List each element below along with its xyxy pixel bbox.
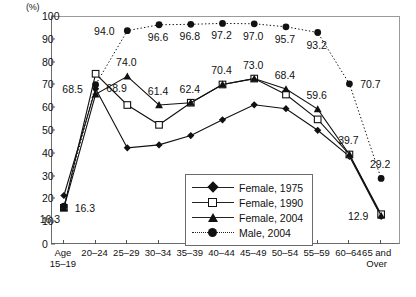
y-axis-tick-mark: [51, 84, 55, 85]
y-axis-tick-mark: [51, 244, 55, 245]
data-point-label: 73.0: [243, 59, 263, 71]
data-point-marker: [92, 81, 99, 88]
y-axis-tick-mark: [51, 107, 55, 108]
y-axis-tick-mark: [51, 198, 55, 199]
data-point-marker: [314, 105, 322, 112]
data-point-marker: [283, 91, 290, 98]
data-point-marker: [156, 122, 163, 129]
x-axis-tick-label: Age15–19: [50, 248, 76, 269]
data-point-marker: [251, 101, 258, 108]
chart-container: (%) 0102030405060708090100 Age15–1920–24…: [0, 0, 416, 297]
legend-item-female-2004: Female, 2004: [192, 210, 306, 225]
data-point-label: 97.0: [243, 30, 263, 42]
data-point-marker: [283, 23, 290, 30]
x-axis-tick-label: 50–54: [272, 248, 298, 259]
data-point-marker: [314, 29, 321, 36]
data-point-marker: [123, 72, 131, 79]
triangle-marker-icon: [192, 211, 234, 224]
x-axis-tick-label: 60–64: [335, 248, 361, 259]
data-point-marker: [378, 175, 385, 182]
y-axis-tick-mark: [51, 130, 55, 131]
y-axis-tick-label: 90: [42, 33, 47, 45]
data-point-label: 61.4: [148, 85, 168, 97]
diamond-marker-icon: [192, 181, 234, 194]
data-point-marker: [124, 144, 131, 151]
data-point-label: 70.7: [360, 78, 380, 90]
data-point-marker: [155, 141, 162, 148]
y-axis-tick-label: 30: [42, 170, 47, 182]
y-axis-tick-mark: [51, 175, 55, 176]
legend-item-female-1975: Female, 1975: [192, 180, 306, 195]
y-axis-tick-label: 70: [42, 78, 47, 90]
y-axis-tick-label: 100: [42, 10, 47, 22]
data-point-marker: [92, 70, 99, 77]
data-point-label: 59.6: [306, 89, 326, 101]
data-point-label: 95.7: [275, 33, 295, 45]
y-axis-tick-label: 60: [42, 101, 47, 113]
data-point-marker: [187, 132, 194, 139]
data-point-marker: [219, 20, 226, 27]
data-point-label: 74.0: [116, 56, 136, 68]
open-square-marker-icon: [192, 196, 234, 209]
y-axis-tick-label: 40: [42, 147, 47, 159]
x-axis-tick-mark: [158, 240, 159, 244]
x-axis-tick-label: 30–34: [145, 248, 171, 259]
x-axis-tick-mark: [63, 240, 64, 244]
legend-label: Female, 2004: [234, 212, 303, 224]
data-point-label: 16.3: [75, 202, 95, 214]
x-axis-tick-mark: [348, 240, 349, 244]
x-axis-tick-label: 55–59: [303, 248, 329, 259]
data-point-label: 12.9: [348, 210, 368, 222]
data-point-label: 62.4: [180, 83, 200, 95]
data-point-marker: [314, 116, 321, 123]
x-axis-tick-mark: [380, 240, 381, 244]
x-axis-tick-label: 65 andOver: [362, 248, 391, 269]
data-point-label: 68.4: [275, 69, 295, 81]
y-axis-tick-label: 50: [42, 124, 47, 136]
data-point-label: 39.7: [338, 134, 358, 146]
x-axis-tick-mark: [126, 240, 127, 244]
x-axis-tick-label: 45–49: [240, 248, 266, 259]
data-point-label: 29.2: [370, 158, 390, 170]
data-point-marker: [282, 105, 289, 112]
x-axis-tick-label: 25–29: [113, 248, 139, 259]
y-axis-tick-label: 80: [42, 56, 47, 68]
x-axis-tick-mark: [317, 240, 318, 244]
y-axis-unit-label: (%): [26, 2, 39, 12]
x-axis-tick-label: 40–44: [208, 248, 234, 259]
data-point-label: 97.2: [211, 29, 231, 41]
data-point-marker: [251, 20, 258, 27]
data-point-label: 96.6: [148, 31, 168, 43]
x-axis-tick-label: 35–39: [177, 248, 203, 259]
data-point-label: 68.5: [62, 83, 82, 95]
y-axis-tick-mark: [51, 38, 55, 39]
legend-label: Female, 1990: [234, 197, 303, 209]
x-axis-tick-mark: [95, 240, 96, 244]
data-point-marker: [124, 102, 131, 109]
legend-label: Female, 1975: [234, 182, 303, 194]
data-point-label: 96.8: [180, 30, 200, 42]
chart-legend: Female, 1975 Female, 1990 Female, 2004 M…: [185, 174, 313, 246]
data-point-marker: [124, 27, 131, 34]
data-point-label: 94.0: [94, 25, 114, 37]
data-point-label: 16.3: [40, 213, 60, 225]
data-point-marker: [60, 203, 67, 210]
data-point-label: 93.2: [306, 39, 326, 51]
y-axis-tick-mark: [51, 152, 55, 153]
x-axis-tick-label: 20–24: [81, 248, 107, 259]
data-point-marker: [156, 21, 163, 28]
y-axis-tick-label: 0: [42, 238, 47, 250]
legend-label: Male, 2004: [234, 227, 291, 239]
data-point-marker: [187, 21, 194, 28]
y-axis-tick-mark: [51, 61, 55, 62]
y-axis-tick-mark: [51, 16, 55, 17]
y-axis-tick-label: 20: [42, 192, 47, 204]
data-point-label: 70.4: [211, 64, 231, 76]
legend-item-male-2004: Male, 2004: [192, 225, 306, 240]
data-point-label: 68.9: [106, 82, 126, 94]
data-point-marker: [219, 116, 226, 123]
legend-item-female-1990: Female, 1990: [192, 195, 306, 210]
data-point-marker: [346, 80, 353, 87]
circle-marker-icon: [192, 226, 234, 239]
